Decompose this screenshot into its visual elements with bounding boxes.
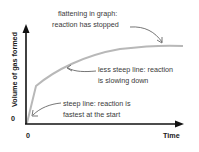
x-axis-label: Time xyxy=(163,131,180,140)
x-axis-arrow-icon xyxy=(175,121,184,128)
low-note-arrow-icon xyxy=(33,103,61,115)
top-note-line2: reaction has stopped xyxy=(52,20,119,29)
y-axis-label: Volume of gas formed xyxy=(10,30,19,110)
top-note-line1: flattening in graph: xyxy=(58,9,117,18)
x-zero-label: 0 xyxy=(26,131,30,140)
y-zero-label: 0 xyxy=(11,114,15,123)
y-axis-arrow-icon xyxy=(23,24,30,33)
low-note-line1: steep line: reaction is xyxy=(63,99,131,108)
top-note-arrowhead-icon xyxy=(157,37,162,43)
mid-note-arrow-icon xyxy=(68,68,96,72)
mid-note-line2: is slowing down xyxy=(98,76,148,85)
mid-note-line1: less steep line: reaction xyxy=(98,65,173,74)
low-note-line2: fastest at the start xyxy=(63,110,120,119)
